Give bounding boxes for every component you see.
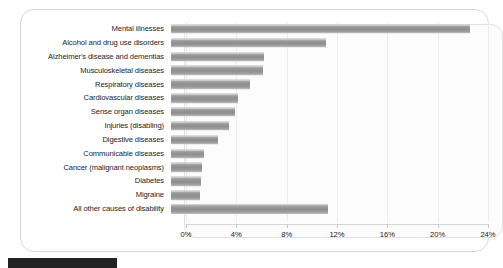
category-label: Digestive diseases (21, 136, 169, 144)
bar-row: Alcohol and drug use disorders (21, 36, 490, 50)
bar (171, 121, 229, 131)
x-tick-label: 16% (380, 230, 395, 239)
x-tick (186, 224, 187, 228)
bar (171, 190, 200, 200)
bar-row: Digestive diseases (21, 133, 490, 147)
bar-row: Musculoskeletal diseases (21, 64, 490, 78)
bar-track (169, 77, 490, 91)
x-tick (236, 224, 237, 228)
bar (171, 135, 218, 145)
bar-track (169, 147, 490, 161)
bar (171, 38, 326, 48)
bar-track (169, 64, 490, 78)
bar-row: Injuries (disabling) (21, 119, 490, 133)
bar (171, 93, 238, 103)
bar (171, 107, 235, 117)
category-label: Diabetes (21, 177, 169, 185)
category-label: Communicable diseases (21, 150, 169, 158)
category-label: Cancer (malignant neoplasms) (21, 164, 169, 172)
bar-row: Mental illnesses (21, 22, 490, 36)
bar-track (169, 188, 490, 202)
category-label: All other causes of disability (21, 205, 169, 213)
bar-row: Diabetes (21, 174, 490, 188)
x-tick (287, 224, 288, 228)
category-label: Migraine (21, 191, 169, 199)
x-tick-label: 8% (281, 230, 292, 239)
bar-track (169, 174, 490, 188)
bar-track (169, 133, 490, 147)
x-tick-label: 0% (181, 230, 192, 239)
bar-rows: Mental illnessesAlcohol and drug use dis… (21, 22, 490, 216)
bar-row: All other causes of disability (21, 202, 490, 216)
category-label: Cardiovascular diseases (21, 94, 169, 102)
category-label: Mental illnesses (21, 25, 169, 33)
x-tick (337, 224, 338, 228)
category-label: Respiratory diseases (21, 81, 169, 89)
x-tick-label: 12% (329, 230, 344, 239)
bar-track (169, 91, 490, 105)
category-label: Injuries (disabling) (21, 122, 169, 130)
x-tick (438, 224, 439, 228)
bar-track (169, 105, 490, 119)
bar (171, 176, 201, 186)
bar-track (169, 119, 490, 133)
category-label: Alzheimer's disease and dementias (21, 53, 169, 61)
x-tick-label: 20% (430, 230, 445, 239)
bar (171, 204, 328, 214)
bar-row: Cancer (malignant neoplasms) (21, 160, 490, 174)
bar-track (169, 50, 490, 64)
bar-track (169, 36, 490, 50)
bar-track (169, 22, 490, 36)
bar (171, 66, 263, 76)
bar (171, 52, 264, 62)
x-tick (488, 224, 489, 228)
bar-row: Respiratory diseases (21, 77, 490, 91)
bottom-black-bar (8, 258, 117, 268)
bar (171, 80, 250, 90)
x-tick-label: 24% (480, 230, 495, 239)
bar-track (169, 160, 490, 174)
bar-track (169, 202, 490, 216)
bar (171, 149, 204, 159)
bar-row: Cardiovascular diseases (21, 91, 490, 105)
x-tick-label: 4% (231, 230, 242, 239)
category-label: Alcohol and drug use disorders (21, 39, 169, 47)
bar-row: Communicable diseases (21, 147, 490, 161)
bar (171, 163, 202, 173)
chart-area: Mental illnessesAlcohol and drug use dis… (21, 10, 490, 253)
bar-row: Alzheimer's disease and dementias (21, 50, 490, 64)
chart-outer-panel: Mental illnessesAlcohol and drug use dis… (20, 9, 489, 252)
bar-row: Sense organ diseases (21, 105, 490, 119)
x-axis: 0%4%8%12%16%20%24% (166, 224, 490, 248)
category-label: Musculoskeletal diseases (21, 67, 169, 75)
category-label: Sense organ diseases (21, 108, 169, 116)
bar-row: Migraine (21, 188, 490, 202)
bar (171, 24, 470, 34)
x-tick (387, 224, 388, 228)
